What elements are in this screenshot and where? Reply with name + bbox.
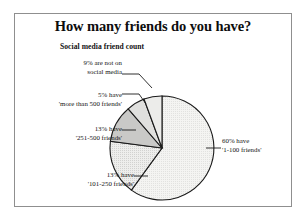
label-1-100-friends: 60% have '1-100 friends': [222, 136, 300, 154]
label-251500-line1: 13% have: [10, 124, 122, 133]
label-over500-line2: 'more than 500 friends': [8, 99, 122, 108]
label-more-than-500-friends: 5% have 'more than 500 friends': [8, 90, 122, 108]
leader-line-none: [122, 74, 152, 88]
label-251-500-friends: 13% have '251-500 friends': [10, 124, 122, 142]
chart-screenshot: How many friends do you have? Social med…: [0, 0, 304, 221]
label-1100-line1: 60% have: [222, 136, 300, 145]
label-1100-line2: '1-100 friends': [222, 145, 300, 154]
label-not-on-social-media: 9% are not on social media: [18, 58, 122, 76]
label-101-250-friends: 13% have '101-250 friends': [22, 170, 134, 188]
label-101250-line2: '101-250 friends': [22, 179, 134, 188]
label-101250-line1: 13% have: [22, 170, 134, 179]
label-none-line2: social media: [18, 67, 122, 76]
label-251500-line2: '251-500 friends': [10, 133, 122, 142]
label-over500-line1: 5% have: [8, 90, 122, 99]
label-none-line1: 9% are not on: [18, 58, 122, 67]
